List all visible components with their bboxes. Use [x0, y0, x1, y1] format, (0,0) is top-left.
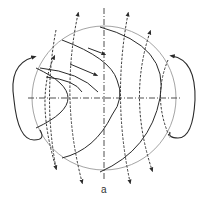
figure-label: a [101, 184, 107, 195]
right-loop [170, 56, 195, 138]
field-line-diagram [0, 0, 208, 199]
